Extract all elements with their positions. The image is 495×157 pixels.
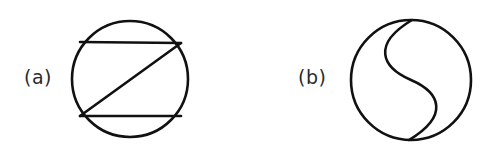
diagonal-chord [80,43,181,116]
panel-a-diagram [0,0,248,157]
figure-root: (a) (b) [0,0,495,157]
figure-panel-a: (a) [0,0,248,157]
s-divider-curve [385,20,436,140]
figure-panel-b: (b) [248,0,495,157]
panel-b-diagram [248,0,495,157]
upper-chord [80,42,181,43]
